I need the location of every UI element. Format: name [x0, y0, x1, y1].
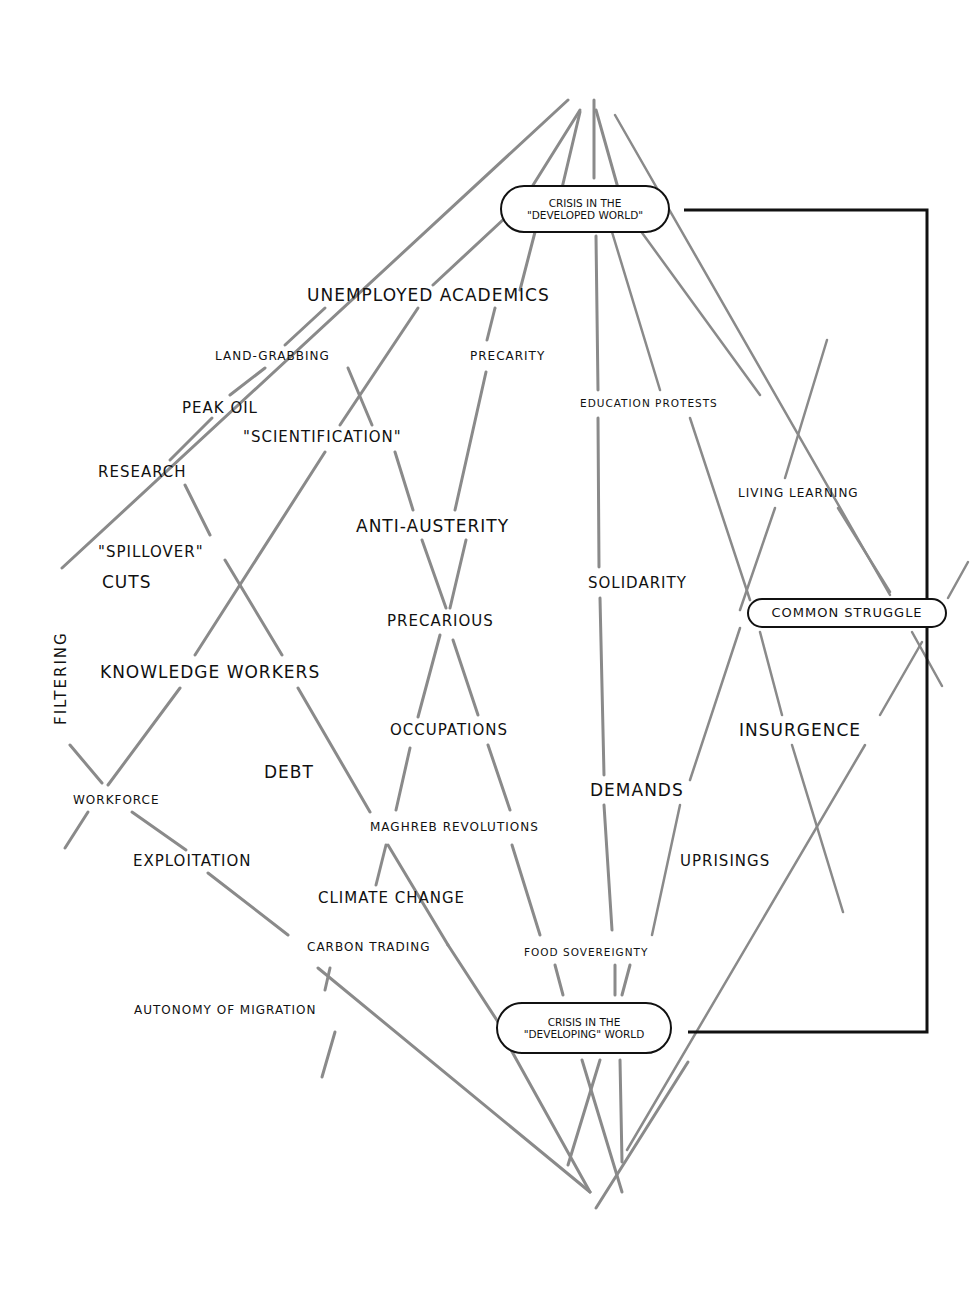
node-crisis-developing-world: Crisis in the "Developing" World	[496, 1002, 672, 1054]
line-knowledge-workforce	[108, 688, 180, 785]
line-education-solidarity	[598, 418, 599, 567]
node-common-struggle-label: Common Struggle	[771, 606, 922, 621]
line-precarious-occupations-a	[418, 635, 440, 717]
line-solidarity-demands	[600, 598, 604, 775]
node-precarious: Precarious	[387, 614, 494, 629]
line-unemployed-landgrab	[285, 308, 325, 345]
node-crisis-developed-line2: "Developed World"	[527, 209, 643, 221]
line-commonstruggle-demands	[690, 628, 740, 780]
node-cuts: Cuts	[102, 574, 152, 591]
line-demands-food-b	[652, 805, 680, 935]
line-living-right	[838, 508, 890, 592]
line-commonstruggle-insurgence	[760, 632, 782, 715]
line-crisis-right	[640, 230, 760, 395]
line-crisis-unemployed	[433, 218, 505, 285]
line-revolutions-food	[512, 845, 540, 935]
node-uprisings: Uprisings	[680, 854, 770, 869]
line-bottom-e	[596, 1062, 688, 1208]
node-land-grabbing: Land-Grabbing	[215, 350, 330, 362]
node-common-struggle: Common Struggle	[747, 598, 947, 628]
line-crisis-education	[596, 236, 598, 390]
line-insurgence-down	[792, 745, 843, 912]
line-maghreb-climate	[376, 845, 386, 885]
line-apex-crisis-d	[596, 110, 618, 188]
line-occupations-maghreb	[396, 748, 410, 810]
node-carbon-trading: Carbon Trading	[307, 941, 431, 953]
line-spillover-workers	[225, 560, 282, 655]
line-exploitation-carbon	[208, 873, 288, 935]
line-migration-down	[322, 1032, 335, 1077]
line-bottom-b	[582, 1060, 622, 1192]
line-maghreb-crisis-dev	[448, 945, 500, 1025]
line-insurgence-crisis	[627, 745, 865, 1150]
node-crisis-developed-line1: Crisis in the	[549, 197, 622, 209]
line-unemployed-precarity	[487, 308, 495, 340]
line-workforce-down	[65, 812, 88, 848]
node-research: Research	[98, 465, 187, 480]
node-living-learning: Living Learning	[738, 487, 859, 499]
node-maghreb-revolutions: Maghreb Revolutions	[370, 821, 539, 833]
node-scientification: "Scientification"	[243, 430, 402, 445]
line-peakoil-research	[170, 418, 212, 460]
line-occupations-revolutions	[488, 745, 510, 810]
node-climate-change: Climate Change	[318, 891, 465, 906]
node-food-sovereignty: Food Sovereignty	[524, 947, 648, 958]
line-scientification-antiausterity	[395, 452, 413, 510]
line-bottom-d	[620, 1060, 622, 1162]
line-scientification-knowledge	[195, 452, 325, 655]
concept-map-canvas: Crisis in the "Developed World" Crisis i…	[0, 0, 980, 1316]
line-living-up	[785, 340, 827, 478]
line-education-commonstruggle	[690, 418, 750, 600]
line-landgrab-peakoil	[230, 368, 265, 395]
line-food-crisis-a	[555, 965, 563, 995]
node-autonomy-of-migration: Autonomy of Migration	[134, 1004, 316, 1016]
line-bottom-a	[510, 1048, 590, 1192]
node-crisis-developed-world: Crisis in the "Developed World"	[500, 185, 670, 233]
line-food-crisis-c	[622, 965, 630, 995]
node-filtering: Filtering	[52, 631, 70, 725]
line-commonstruggle-insurgence-b	[880, 642, 922, 715]
node-insurgence: Insurgence	[739, 722, 861, 739]
line-demands-food	[604, 805, 612, 930]
node-spillover: "Spillover"	[98, 545, 204, 560]
node-anti-austerity: Anti-Austerity	[356, 518, 509, 535]
node-crisis-developing-line2: "Developing" World	[524, 1028, 645, 1040]
line-unemployed-scientification	[340, 308, 418, 425]
node-peak-oil: Peak Oil	[182, 401, 258, 416]
line-crisis-education-b	[612, 232, 660, 390]
node-occupations: Occupations	[390, 723, 508, 738]
node-solidarity: Solidarity	[588, 576, 687, 591]
node-knowledge-workers: Knowledge Workers	[100, 664, 320, 681]
node-debt: Debt	[264, 764, 314, 781]
line-landgrab-cross	[348, 368, 372, 425]
line-living-commonstruggle	[740, 508, 775, 610]
node-demands: Demands	[590, 782, 684, 799]
line-research-spillover	[185, 485, 210, 535]
node-workforce: Workforce	[73, 794, 160, 806]
line-filtering-workforce	[70, 745, 102, 783]
line-crisis-unemployed-b	[520, 232, 535, 290]
node-unemployed-academics: Unemployed Academics	[307, 287, 550, 304]
node-education-protests: Education Protests	[580, 398, 718, 409]
line-antiausterity-precarious-a	[422, 540, 446, 608]
line-apex-research	[62, 100, 568, 568]
line-workforce-exploitation	[132, 812, 186, 850]
node-crisis-developing-line1: Crisis in the	[548, 1016, 621, 1028]
line-precarity-antiausterity	[455, 372, 486, 510]
line-workers-maghreb	[298, 688, 370, 812]
node-precarity: Precarity	[470, 350, 545, 362]
line-precarious-occupations-b	[453, 640, 478, 715]
line-antiausterity-precarious-b	[450, 540, 466, 608]
node-exploitation: Exploitation	[133, 854, 252, 869]
line-right-tick-a	[948, 562, 968, 598]
line-bottom-c	[568, 1060, 600, 1165]
connector-lines	[0, 0, 980, 1316]
